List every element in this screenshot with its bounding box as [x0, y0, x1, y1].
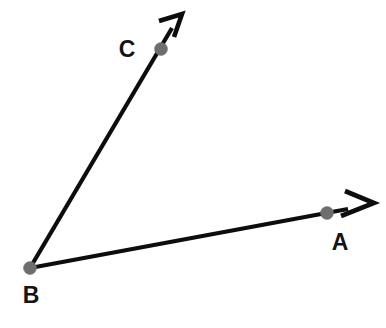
point-label-a: A — [332, 229, 349, 255]
angle-diagram: C A B — [0, 0, 386, 328]
point-dot-c — [155, 43, 168, 56]
diagram-canvas: C A B — [0, 0, 386, 328]
point-label-c: C — [119, 36, 136, 62]
ray-ba-arrowhead-icon — [341, 191, 374, 216]
point-label-b: B — [23, 282, 40, 308]
point-dot-a — [321, 207, 334, 220]
ray-bc-shaft — [30, 28, 172, 268]
point-dot-b — [24, 262, 37, 275]
ray-ba-shaft — [30, 209, 348, 268]
